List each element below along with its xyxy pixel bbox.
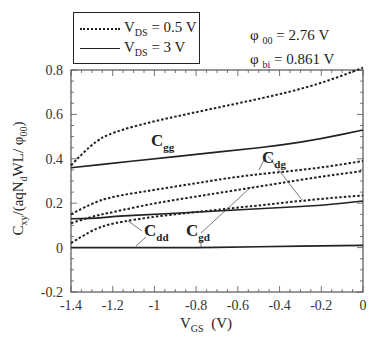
phi00-annotation: φ 00 = 2.76 V [250,24,334,48]
c-main: C [262,148,274,167]
phi-symbol: φ [250,51,259,67]
c-sub: dd [156,231,168,243]
x-tick-label: -0.6 [227,298,249,313]
value: = 2.76 V [272,27,329,43]
x-tick-label: -1 [149,298,161,313]
c-main: C [186,221,198,240]
subscript: bi [262,59,270,70]
c-main: C [144,221,156,240]
x-tick-label: -0.8 [185,298,207,313]
y-tick-label: 0.2 [46,196,64,211]
x-label-unit: (V) [204,315,232,331]
x-tick-label: -0.4 [268,298,290,313]
x-tick-label: 0 [360,298,367,313]
c-sub: dg [274,158,286,170]
series-line-0 [71,68,363,166]
series-line-4 [71,201,363,219]
legend-text: = 3 V [148,39,186,55]
legend-symbol: V [124,19,135,35]
legend-symbol: V [124,39,135,55]
series-line-6 [71,245,363,247]
y-tick-label: 0.8 [46,63,64,78]
label-cdd: Cdd [144,221,169,241]
series-line-2 [71,161,363,214]
label-leader-line [128,221,142,231]
series-line-5 [71,195,363,243]
phibi-annotation: φ bi = 0.861 V [250,48,334,72]
y-tick-label: 0 [56,241,63,256]
y-tick-label: 0.4 [46,152,64,167]
legend-subscript: DS [135,47,148,58]
x-tick-label: -1.2 [102,298,124,313]
dotted-line-swatch [80,28,120,30]
legend-text: = 0.5 V [148,19,197,35]
y-axis-label: Cxy/(aqNdWL/ φ00) [10,89,27,269]
legend: VDS = 0.5 V VDS = 3 V [73,12,200,64]
phi-symbol: φ [250,27,259,43]
y-tick-label: -0.2 [41,285,63,300]
c-sub: gd [198,231,210,243]
x-tick-label: -0.2 [310,298,332,313]
solid-line-swatch [80,48,120,49]
c-main: C [151,131,163,150]
legend-item-vds-3: VDS = 3 V [80,40,185,56]
label-cgd: Cgd [186,221,210,241]
c-sub: gg [163,141,174,153]
value: = 0.861 V [270,51,334,67]
label-cdg: Cdg [262,148,286,168]
plot-frame [71,70,363,292]
x-axis-label: VGS (V) [180,315,232,332]
label-cgg: Cgg [151,131,174,151]
parameter-annotations: φ 00 = 2.76 V φ bi = 0.861 V [250,24,334,72]
x-label-sub: GS [191,323,204,334]
legend-subscript: DS [135,27,148,38]
x-label-main: V [180,315,191,331]
x-tick-label: -1.4 [60,298,82,313]
y-tick-label: 0.6 [46,107,64,122]
legend-item-vds-0.5: VDS = 0.5 V [80,20,197,36]
subscript: 00 [262,35,272,46]
series-line-1 [71,130,363,168]
